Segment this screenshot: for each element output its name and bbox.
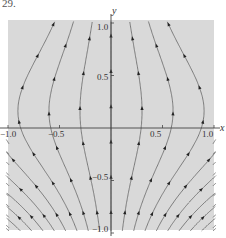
x-tick-label-neg1: −1.0: [0, 129, 17, 139]
x-tick-label-neg05: −0.5: [48, 129, 65, 139]
stream-plot: y x −1.0 −0.5 0.5 1.0 1.0 0.5 −0.5 −1.0: [0, 0, 226, 238]
y-tick-label-05: 0.5: [97, 72, 109, 82]
y-tick-label-neg05: −0.5: [92, 172, 109, 182]
x-tick-label-05: 0.5: [150, 129, 162, 139]
y-tick-label-1: 1.0: [97, 22, 109, 32]
y-tick-label-neg1: −1.0: [92, 224, 109, 234]
x-axis-label: x: [219, 122, 225, 133]
x-tick-label-1: 1.0: [202, 129, 214, 139]
y-axis-label: y: [111, 5, 117, 16]
